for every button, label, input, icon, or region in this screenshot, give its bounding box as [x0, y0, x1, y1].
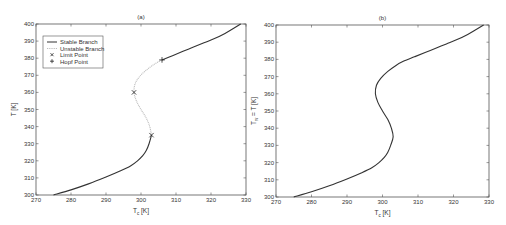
y-tick-label: 330: [264, 142, 275, 148]
y-tick-label: 330: [24, 141, 35, 147]
y-tick-label: 310: [264, 177, 275, 183]
chart-b: 2702802903003103203303003103203303403503…: [250, 15, 495, 218]
y-tick-label: 370: [24, 72, 35, 78]
x-tick-label: 290: [342, 199, 353, 205]
x-tick-label: 310: [171, 197, 182, 203]
x-tick-label: 330: [484, 199, 495, 205]
legend: Stable BranchUnstable BranchLimit PointH…: [43, 36, 104, 68]
unstable-branch-line: [134, 60, 162, 135]
x-tick-label: 280: [66, 197, 77, 203]
y-tick-label: 370: [264, 74, 275, 80]
y-tick-label: 400: [264, 22, 275, 28]
y-tick-label: 360: [24, 89, 35, 95]
y-tick-label: 360: [264, 91, 275, 97]
y-tick-label: 400: [24, 21, 35, 27]
y-tick-label: 320: [24, 158, 35, 164]
x-tick-label: 290: [101, 197, 112, 203]
y-tick-label: 350: [264, 108, 275, 114]
legend-label-stable-branch: Stable Branch: [60, 39, 98, 45]
chart-title: (a): [137, 14, 144, 20]
y-tick-label: 340: [264, 125, 275, 131]
y-tick-label: 310: [24, 175, 35, 181]
x-tick-label: 320: [448, 199, 459, 205]
x-axis-label: Tc [K]: [133, 207, 149, 216]
chart-a: 2702802903003103203303003103203303403503…: [10, 14, 252, 216]
legend-label-hopf-point: Hopf Point: [60, 59, 88, 65]
legend-label-limit-point: Limit Point: [60, 52, 88, 58]
stable-branch-line: [54, 135, 152, 195]
hopf-point-marker: [159, 57, 165, 63]
y-tick-label: 300: [24, 192, 35, 198]
y-tick-label: 390: [24, 38, 35, 44]
figure: 2702802903003103203303003103203303403503…: [0, 0, 506, 225]
x-axis-label: Tc [K]: [375, 209, 391, 218]
x-tick-label: 320: [206, 197, 217, 203]
y-tick-label: 380: [264, 56, 275, 62]
curve-line: [294, 25, 484, 197]
x-tick-label: 280: [306, 199, 317, 205]
y-axis-label: Tw = T [K]: [250, 97, 259, 125]
y-tick-label: 390: [264, 39, 275, 45]
stable-branch-line: [162, 24, 241, 60]
x-tick-label: 300: [136, 197, 147, 203]
x-tick-label: 330: [241, 197, 252, 203]
legend-label-unstable-branch: Unstable Branch: [60, 46, 104, 52]
y-tick-label: 320: [264, 160, 275, 166]
y-tick-label: 380: [24, 55, 35, 61]
y-axis-label: T [K]: [10, 103, 18, 117]
y-tick-label: 300: [264, 194, 275, 200]
y-tick-label: 340: [24, 124, 35, 130]
x-tick-label: 300: [377, 199, 388, 205]
x-tick-label: 310: [413, 199, 424, 205]
y-tick-label: 350: [24, 107, 35, 113]
chart-title: (b): [379, 15, 386, 21]
